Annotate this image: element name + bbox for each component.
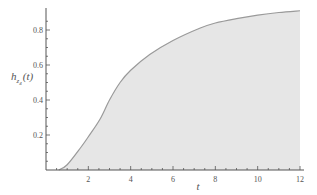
y-tick-label: 0.4	[33, 96, 43, 105]
y-label-arg: (t)	[23, 70, 34, 83]
hazard-chart: 246810120.20.40.60.8 t hz4(t)	[0, 0, 317, 195]
plot-area	[59, 11, 300, 170]
y-tick-label: 0.2	[33, 131, 43, 140]
x-tick-label: 12	[296, 175, 304, 184]
x-tick-label: 10	[254, 175, 262, 184]
x-tick-label: 6	[171, 175, 175, 184]
x-tick-label: 4	[129, 175, 133, 184]
x-axis-label: t	[196, 180, 200, 192]
y-axis-label: hz4(t)	[11, 70, 33, 86]
area-fill	[59, 11, 300, 170]
y-tick-label: 0.6	[33, 61, 43, 70]
x-tick-label: 2	[86, 175, 90, 184]
x-tick-label: 8	[213, 175, 217, 184]
y-tick-label: 0.8	[33, 26, 43, 35]
